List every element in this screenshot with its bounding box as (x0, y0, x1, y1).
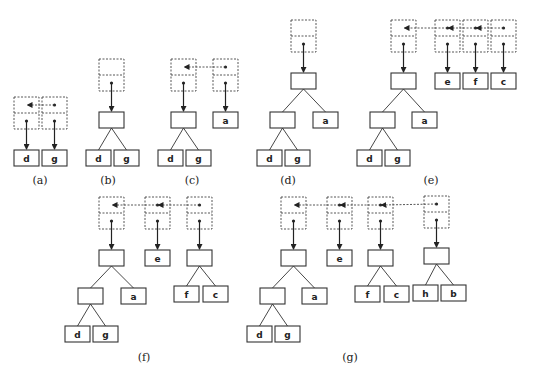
node-label: a (222, 116, 228, 126)
panel-e: adgefc(e) (357, 20, 516, 187)
node-label: g (123, 154, 129, 164)
tree-edge (171, 128, 184, 150)
leaf-node: g (275, 326, 300, 342)
leaf-node: f (463, 73, 488, 89)
tree-edge (370, 128, 383, 150)
internal-node (78, 288, 103, 304)
leaf-node: g (42, 150, 67, 166)
internal-node (370, 112, 395, 128)
leaf-node: g (93, 326, 118, 342)
tree-edge (381, 266, 397, 286)
node-label: b (450, 289, 457, 299)
panel-caption: (b) (100, 174, 116, 187)
internal-node (424, 248, 449, 264)
tree-edge (78, 304, 91, 326)
node-label: a (421, 116, 427, 126)
internal-node (99, 112, 124, 128)
leaf-node: c (491, 73, 516, 89)
tree-edge (112, 266, 134, 288)
tree-edge (187, 266, 200, 286)
node-label: f (366, 290, 370, 300)
tree-edge (304, 89, 326, 112)
leaf-node: g (186, 150, 211, 166)
tree-edge (184, 128, 199, 150)
leaf-node: a (412, 112, 437, 128)
tree-edge (200, 266, 216, 286)
leaf-node: d (247, 326, 272, 342)
tree-edge (273, 266, 294, 288)
leaf-node: e (327, 250, 352, 266)
panel-f: adgefc(f) (65, 197, 228, 364)
node-label: g (51, 154, 57, 164)
panel-c: dga(c) (158, 59, 238, 187)
leaf-node: a (121, 288, 146, 304)
tree-edge (368, 266, 381, 286)
node-label: d (74, 330, 80, 340)
internal-node (260, 288, 285, 304)
panel-caption: (f) (138, 351, 151, 364)
internal-node (171, 112, 196, 128)
node-label: c (213, 290, 218, 300)
tree-edge (437, 264, 454, 285)
leaf-node: a (302, 288, 327, 304)
leaf-node: g (114, 150, 139, 166)
panel-d: adg(d) (257, 20, 338, 187)
node-label: g (284, 330, 290, 340)
node-label: f (185, 290, 189, 300)
internal-node (99, 250, 124, 266)
node-label: f (474, 77, 478, 87)
internal-node (270, 112, 295, 128)
node-label: a (322, 116, 328, 126)
panel-caption: (g) (342, 351, 358, 364)
node-label: c (501, 77, 506, 87)
leaf-node: d (14, 150, 39, 166)
leaf-node: d (158, 150, 183, 166)
internal-node (368, 250, 393, 266)
huffman-forest-diagram: dg(a)dg(b)dga(c)adg(d)adgefc(e)adgefc(f)… (0, 0, 534, 381)
leaf-node: d (257, 150, 282, 166)
panel-caption: (c) (185, 174, 200, 187)
tree-edge (91, 304, 106, 326)
tree-edge (270, 128, 283, 150)
node-label: g (294, 154, 300, 164)
leaf-node: g (285, 150, 310, 166)
node-label: a (130, 292, 136, 302)
internal-node (187, 250, 212, 266)
node-label: g (195, 154, 201, 164)
tree-edge (112, 128, 127, 150)
tree-edge (273, 304, 288, 326)
tree-edge (294, 266, 315, 288)
panel-b: dg(b) (86, 59, 139, 187)
leaf-node: d (357, 150, 382, 166)
leaf-node: a (213, 112, 238, 128)
leaf-node: c (203, 286, 228, 302)
tree-edge (283, 89, 304, 112)
leaf-node: a (313, 112, 338, 128)
tree-edge (404, 89, 425, 112)
node-label: h (422, 289, 428, 299)
leaf-node: h (413, 285, 438, 301)
node-label: e (154, 254, 160, 264)
node-label: e (444, 77, 450, 87)
tree-edge (260, 304, 273, 326)
panel-caption: (e) (423, 174, 438, 187)
node-label: d (366, 154, 372, 164)
figure-canvas: dg(a)dg(b)dga(c)adg(d)adgefc(e)adgefc(f)… (0, 0, 534, 381)
panel-a: dg(a) (14, 97, 67, 187)
tree-edge (426, 264, 437, 285)
leaf-node: d (86, 150, 111, 166)
panel-g: adgefchb(g) (247, 196, 466, 364)
node-label: g (102, 330, 108, 340)
node-label: d (256, 330, 262, 340)
node-label: c (394, 290, 399, 300)
internal-node (391, 73, 416, 89)
panel-caption: (a) (32, 174, 47, 187)
node-label: g (394, 154, 400, 164)
tree-edge (383, 128, 398, 150)
node-label: a (311, 292, 317, 302)
leaf-node: e (145, 250, 170, 266)
internal-node (281, 250, 306, 266)
leaf-node: e (435, 73, 460, 89)
leaf-node: c (384, 286, 409, 302)
leaf-node: g (385, 150, 410, 166)
